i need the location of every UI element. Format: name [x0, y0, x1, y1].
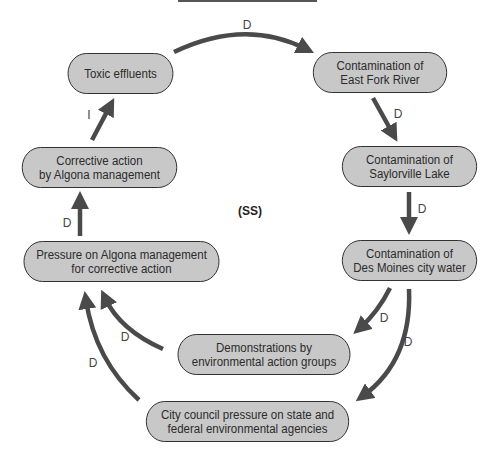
edge-label: I — [87, 108, 90, 122]
edge-label: D — [380, 311, 389, 325]
node-city-council: City council pressure on state and feder… — [146, 401, 349, 442]
node-label: City council pressure on state and feder… — [161, 408, 334, 436]
node-corrective-action: Corrective action by Algona management — [22, 147, 177, 188]
node-label: Pressure on Algona management for correc… — [36, 248, 207, 276]
arrow-corrective-to-toxic — [92, 106, 110, 140]
center-label: (SS) — [238, 204, 262, 218]
node-label: Contamination of Saylorville Lake — [366, 153, 453, 181]
node-toxic-effluents: Toxic effluents — [68, 53, 174, 94]
edge-label: D — [418, 202, 427, 216]
node-saylorville-lake: Contamination of Saylorville Lake — [342, 146, 477, 187]
edge-label: D — [121, 330, 130, 344]
edge-label: D — [404, 335, 413, 349]
arrow-citycouncil-to-pressure — [86, 300, 139, 400]
node-label: Toxic effluents — [84, 67, 157, 81]
node-label: Contamination of Des Moines city water — [353, 247, 465, 275]
arrow-desmoines-to-citycouncil — [363, 289, 409, 396]
node-des-moines-water: Contamination of Des Moines city water — [342, 240, 477, 281]
node-label: Contamination of East Fork River — [337, 59, 424, 87]
arrow-demonstrations-to-pressure — [105, 298, 163, 349]
node-label: Corrective action by Algona management — [39, 154, 160, 182]
edge-label: D — [89, 356, 98, 370]
node-pressure-on-management: Pressure on Algona management for correc… — [24, 241, 220, 282]
node-east-fork-river: Contamination of East Fork River — [313, 52, 447, 93]
arrow-toxic-to-eastfork — [174, 34, 306, 52]
edge-label: D — [243, 18, 252, 32]
node-demonstrations: Demonstrations by environmental action g… — [178, 334, 351, 375]
arrow-eastfork-to-saylorville — [373, 98, 393, 134]
edge-label: D — [394, 107, 403, 121]
edge-label: D — [63, 216, 72, 230]
node-label: Demonstrations by environmental action g… — [192, 341, 336, 369]
